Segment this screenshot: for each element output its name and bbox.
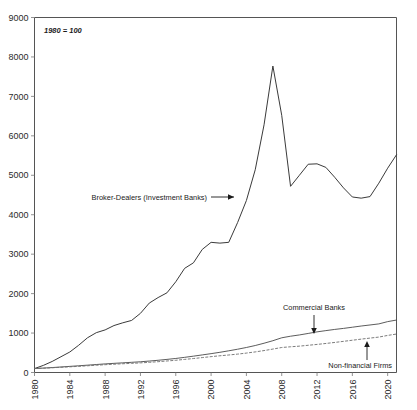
y-axis-tick-label: 4000 — [8, 210, 28, 220]
x-axis-tick-label: 1992 — [136, 380, 146, 400]
y-axis-tick-label: 0 — [23, 368, 28, 378]
index-base-note: 1980 = 100 — [44, 26, 83, 35]
chart-container: 0100020003000400050006000700080009000 19… — [0, 0, 417, 410]
y-axis-tick-label: 1000 — [8, 328, 28, 338]
y-axis-tick-label: 3000 — [8, 249, 28, 259]
line-chart: 0100020003000400050006000700080009000 19… — [0, 0, 417, 410]
x-axis-tick-label: 1984 — [65, 380, 75, 400]
y-axis-tick-label: 9000 — [8, 13, 28, 23]
x-axis-tick-label: 2012 — [312, 380, 322, 400]
y-axis-tick-label: 5000 — [8, 170, 28, 180]
x-axis-tick-label: 2000 — [206, 380, 216, 400]
x-axis-tick-label: 1996 — [171, 380, 181, 400]
x-axis-tick-label: 1980 — [30, 380, 40, 400]
y-axis-tick-label: 6000 — [8, 131, 28, 141]
non-financial-firms-annotation-label: Non-financial Firms — [328, 361, 392, 370]
x-axis-tick-label: 1988 — [101, 380, 111, 400]
y-axis-tick-label: 8000 — [8, 52, 28, 62]
x-axis-tick-label: 2020 — [383, 380, 393, 400]
y-axis-tick-label: 7000 — [8, 92, 28, 102]
x-axis-tick-label: 2008 — [277, 380, 287, 400]
chart-background — [0, 0, 417, 410]
commercial-banks-annotation-label: Commercial Banks — [283, 303, 345, 312]
broker-dealers-annotation-label: Broker-Dealers (Investment Banks) — [92, 193, 207, 202]
x-axis-tick-label: 2016 — [348, 380, 358, 400]
y-axis-tick-label: 2000 — [8, 289, 28, 299]
x-axis-tick-label: 2004 — [242, 380, 252, 400]
